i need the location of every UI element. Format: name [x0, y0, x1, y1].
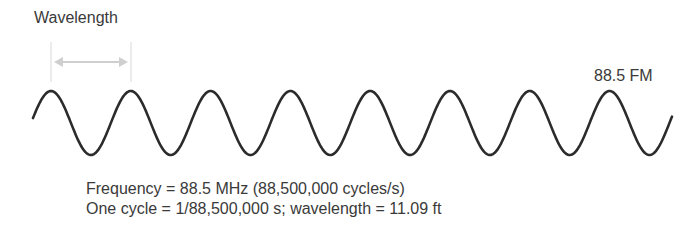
- frequency-caption: Frequency = 88.5 MHz (88,500,000 cycles/…: [86, 180, 405, 198]
- arrowhead-right-icon: [119, 57, 128, 67]
- station-label: 88.5 FM: [594, 67, 653, 85]
- wavelength-marker: [51, 42, 131, 82]
- wavelength-label: Wavelength: [34, 9, 118, 27]
- arrowhead-left-icon: [54, 57, 63, 67]
- cycle-caption: One cycle = 1/88,500,000 s; wavelength =…: [86, 200, 442, 218]
- sine-wave: [33, 91, 672, 155]
